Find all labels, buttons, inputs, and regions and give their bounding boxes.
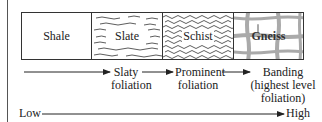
shale-box: Shale bbox=[21, 12, 92, 60]
schist-label: Schist bbox=[182, 29, 213, 44]
gneiss-box: Gneiss bbox=[233, 12, 304, 60]
slate-label: Slate bbox=[114, 29, 140, 44]
banding-label: Banding (highest level foliation) bbox=[250, 66, 316, 105]
banding-line-3: foliation) bbox=[250, 92, 316, 105]
high-label: High bbox=[286, 107, 310, 120]
slaty-line-2: foliation bbox=[111, 79, 141, 92]
slaty-foliation-label: Slaty foliation bbox=[111, 66, 141, 92]
prominent-foliation-label: Prominent foliation bbox=[175, 66, 221, 92]
prominent-line-2: foliation bbox=[175, 79, 221, 92]
shale-label: Shale bbox=[42, 29, 71, 44]
schist-box: Schist bbox=[162, 12, 234, 60]
gneiss-label: Gneiss bbox=[250, 29, 286, 44]
low-label: Low bbox=[19, 107, 41, 120]
slate-box: Slate bbox=[91, 12, 163, 60]
